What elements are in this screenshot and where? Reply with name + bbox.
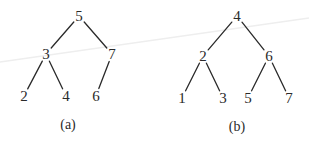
tree-edge [208,22,232,50]
tree-node: 5 [75,8,83,24]
tree-edge [272,63,285,91]
tree-edge [186,63,200,91]
tree-node: 7 [285,90,293,106]
tree-node: 1 [178,90,186,106]
tree-node: 6 [92,88,100,104]
tree-b: 4261357(b) [178,8,293,135]
tree-node: 3 [42,46,50,62]
tree-caption: (a) [60,117,76,133]
tree-node: 4 [62,88,70,104]
tree-node: 3 [219,90,227,106]
tree-a: 537246(a) [20,8,116,133]
tree-edge [252,63,266,91]
tree-node: 2 [199,48,207,64]
tree-node: 2 [20,88,28,104]
tree-caption: (b) [229,119,246,135]
tree-edge [99,62,109,89]
tree-edge [51,22,74,48]
tree-edge [28,61,43,89]
tree-edge [84,22,107,48]
tree-diagram: 537246(a) 4261357(b) [0,0,309,142]
tree-node: 4 [233,8,241,24]
tree-edge [206,63,219,91]
tree-edge [49,61,62,89]
tree-node: 7 [108,46,116,62]
tree-node: 5 [244,90,252,106]
tree-node: 6 [265,48,273,64]
